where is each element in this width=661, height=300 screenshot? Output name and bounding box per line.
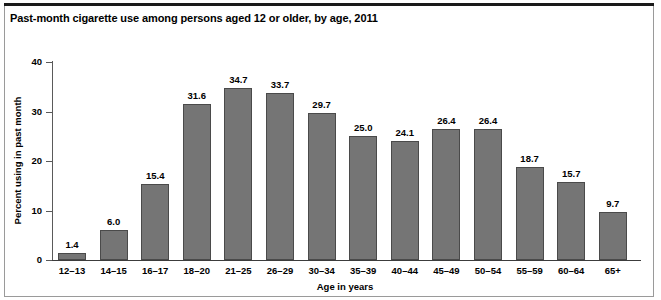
chart-figure: Past-month cigarette use among persons a…	[0, 0, 661, 300]
bar	[391, 141, 419, 260]
bar-value-label: 26.4	[468, 116, 508, 126]
y-axis-line	[52, 61, 53, 261]
y-axis-tick-label: 0	[20, 255, 42, 265]
x-axis-tick-label: 55–59	[507, 266, 553, 276]
y-axis-tick-label-wrap: 40	[18, 57, 42, 67]
y-axis-tick	[46, 161, 52, 162]
x-axis-tick-label: 18–20	[174, 266, 220, 276]
y-axis-tick	[46, 112, 52, 113]
y-axis-tick-label-wrap: 0	[18, 255, 42, 265]
bar-value-label: 34.7	[218, 75, 258, 85]
x-axis-tick-label: 14–15	[91, 266, 137, 276]
bar-value-label: 33.7	[260, 80, 300, 90]
x-axis-title: Age in years	[285, 281, 405, 292]
bar-value-label: 25.0	[343, 123, 383, 133]
x-axis-tick-label: 45–49	[423, 266, 469, 276]
y-axis-tick-label: 20	[20, 156, 42, 166]
x-axis-tick-label: 35–39	[340, 266, 386, 276]
y-axis-title: Percent using in past month	[12, 91, 23, 231]
y-axis-tick-label: 10	[20, 206, 42, 216]
y-axis-tick-label: 30	[20, 107, 42, 117]
bar	[100, 230, 128, 260]
bar-value-label: 31.6	[177, 91, 217, 101]
x-axis-tick-label: 12–13	[49, 266, 95, 276]
y-axis-tick-label: 40	[20, 57, 42, 67]
y-axis-tick	[46, 260, 52, 261]
bar	[432, 129, 460, 260]
bar-value-label: 6.0	[94, 217, 134, 227]
x-axis-tick-label: 21–25	[215, 266, 261, 276]
bar	[349, 136, 377, 260]
bar	[224, 88, 252, 260]
bar-value-label: 9.7	[593, 199, 633, 209]
bar-value-label: 15.4	[135, 171, 175, 181]
x-axis-tick-label: 60–64	[548, 266, 594, 276]
bar	[183, 104, 211, 260]
x-axis-tick-label: 65+	[590, 266, 636, 276]
x-axis-tick-label: 50–54	[465, 266, 511, 276]
x-axis-tick-label: 40–44	[382, 266, 428, 276]
bar-value-label: 18.7	[510, 154, 550, 164]
bar	[266, 93, 294, 260]
bar-value-label: 15.7	[551, 169, 591, 179]
bar	[474, 129, 502, 260]
bar-value-label: 26.4	[426, 116, 466, 126]
x-axis-line	[52, 260, 641, 261]
bar	[58, 253, 86, 260]
bar-value-label: 1.4	[52, 240, 92, 250]
y-axis-tick	[46, 211, 52, 212]
bar	[141, 184, 169, 260]
y-axis-tick	[46, 62, 52, 63]
bar	[557, 182, 585, 260]
plot-area: 010203040 Percent using in past month 1.…	[0, 0, 661, 300]
bar-value-label: 24.1	[385, 128, 425, 138]
bar	[516, 167, 544, 260]
bar-value-label: 29.7	[302, 100, 342, 110]
x-axis-tick-label: 26–29	[257, 266, 303, 276]
bar	[599, 212, 627, 260]
x-axis-tick-label: 30–34	[299, 266, 345, 276]
bar	[308, 113, 336, 260]
x-axis-tick-label: 16–17	[132, 266, 178, 276]
